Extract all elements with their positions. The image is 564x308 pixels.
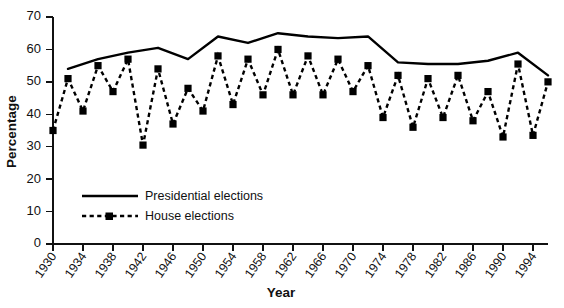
y-tick-label: 10 [27, 203, 41, 218]
chart-legend: Presidential elections House elections [82, 189, 263, 223]
house-data-point [334, 56, 341, 63]
legend-label-presidential: Presidential elections [145, 189, 263, 203]
house-data-point [469, 117, 476, 124]
x-axis-tick-labels: 1930193419381942194619501954195819621966… [32, 250, 539, 281]
house-data-point [229, 101, 236, 108]
y-tick-label: 40 [27, 106, 41, 121]
house-data-point [364, 62, 371, 69]
x-tick-label: 1950 [182, 250, 209, 281]
x-axis: 1930193419381942194619501954195819621966… [32, 244, 548, 300]
house-data-point [514, 60, 521, 67]
y-axis-title: Percentage [4, 95, 19, 168]
y-tick-label: 70 [27, 8, 41, 23]
house-data-point [394, 72, 401, 79]
house-data-point [109, 88, 116, 95]
house-data-point [379, 114, 386, 121]
legend-label-house: House elections [145, 209, 234, 223]
voter-turnout-line-chart: 010203040506070 Percentage 1930193419381… [0, 0, 564, 308]
house-data-point [259, 91, 266, 98]
x-tick-label: 1958 [242, 250, 269, 281]
y-tick-label: 0 [34, 235, 41, 250]
house-data-point [304, 52, 311, 59]
y-tick-label: 30 [27, 138, 41, 153]
house-data-point [199, 107, 206, 114]
x-axis-ticks [53, 244, 533, 251]
house-data-point [64, 75, 71, 82]
house-data-point [499, 133, 506, 140]
house-elections-line [53, 49, 548, 145]
house-data-point [139, 141, 146, 148]
chart-container: 010203040506070 Percentage 1930193419381… [0, 0, 564, 308]
x-tick-label: 1934 [62, 250, 89, 281]
x-tick-label: 1970 [332, 250, 359, 281]
x-tick-label: 1946 [152, 250, 179, 281]
x-tick-label: 1990 [482, 250, 509, 281]
house-data-point [184, 85, 191, 92]
house-data-point [94, 62, 101, 69]
house-data-point [484, 88, 491, 95]
x-tick-label: 1994 [512, 250, 539, 281]
x-tick-label: 1930 [32, 250, 59, 281]
x-tick-label: 1962 [272, 250, 299, 281]
x-axis-title: Year [267, 285, 296, 300]
x-tick-label: 1986 [452, 250, 479, 281]
house-data-point [289, 91, 296, 98]
house-data-point [454, 72, 461, 79]
house-data-point [424, 75, 431, 82]
x-tick-label: 1938 [92, 250, 119, 281]
y-axis-tick-labels: 010203040506070 [27, 8, 41, 250]
house-data-point [529, 132, 536, 139]
house-data-point [124, 56, 131, 63]
y-tick-label: 20 [27, 171, 41, 186]
house-data-point [439, 114, 446, 121]
house-data-point [349, 88, 356, 95]
x-tick-label: 1982 [422, 250, 449, 281]
house-data-point [244, 56, 251, 63]
x-tick-label: 1966 [302, 250, 329, 281]
house-data-point [544, 78, 551, 85]
x-tick-label: 1942 [122, 250, 149, 281]
x-tick-label: 1978 [392, 250, 419, 281]
house-data-point [79, 107, 86, 114]
house-data-point [274, 46, 281, 53]
legend-marker-house [106, 213, 114, 221]
house-data-point [214, 52, 221, 59]
x-tick-label: 1954 [212, 250, 239, 281]
y-tick-label: 60 [27, 41, 41, 56]
house-data-point [319, 91, 326, 98]
y-tick-label: 50 [27, 73, 41, 88]
house-data-point [409, 124, 416, 131]
house-data-point [49, 127, 56, 134]
data-series-group [49, 33, 551, 148]
house-data-point [169, 120, 176, 127]
house-data-point [154, 65, 161, 72]
y-axis: 010203040506070 Percentage [4, 8, 53, 250]
x-tick-label: 1974 [362, 250, 389, 281]
